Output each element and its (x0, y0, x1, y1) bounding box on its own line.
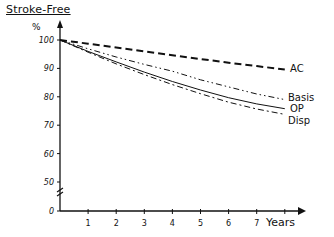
y-tick-label: 90 (44, 64, 54, 73)
series-line-basis (60, 40, 285, 100)
legend-label-op: OP (290, 103, 304, 114)
series-line-ac (60, 40, 285, 70)
x-tick-label: 1 (86, 219, 91, 228)
y-tick-label: 50 (44, 178, 54, 187)
x-tick-label: 4 (170, 219, 175, 228)
y-tick-label: 100 (39, 36, 54, 45)
legend-label-ac: AC (290, 63, 304, 74)
series-line-disp (60, 40, 285, 114)
y-tick-label: 70 (44, 121, 54, 130)
y-axis-unit: % (32, 22, 41, 32)
line-chart: %050607080901001234567YearsACBasisOPDisp (0, 0, 334, 237)
x-tick-label: 3 (142, 219, 147, 228)
y-tick-label: 80 (44, 93, 54, 102)
x-tick-label: 6 (226, 219, 231, 228)
y-tick-label: 60 (44, 150, 54, 159)
series-line-op (60, 40, 285, 109)
legend-label-disp: Disp (288, 115, 310, 126)
y-tick-label: 0 (49, 207, 54, 216)
x-axis-title: Years (265, 216, 295, 229)
legend-label-basis: Basis (288, 92, 314, 103)
x-tick-label: 2 (114, 219, 119, 228)
y-axis-arrow-icon (57, 20, 63, 28)
x-tick-label: 5 (198, 219, 203, 228)
x-tick-label: 7 (254, 219, 259, 228)
x-axis-arrow-icon (298, 207, 306, 215)
